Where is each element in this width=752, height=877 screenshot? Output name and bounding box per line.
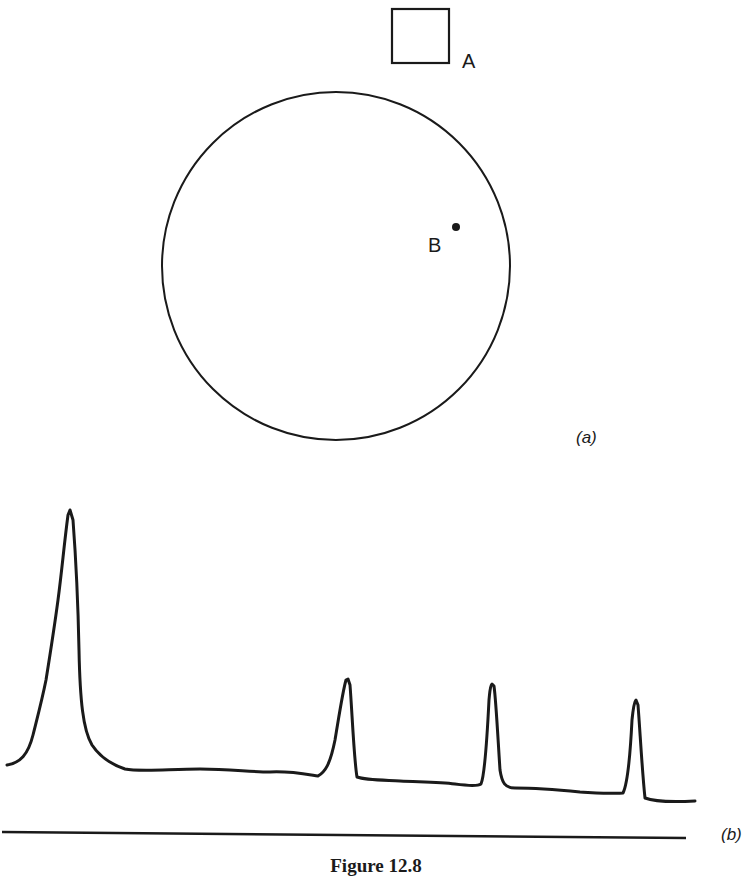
- signal-trace: [7, 510, 695, 802]
- point-b-dot: [452, 223, 460, 231]
- panel-b-label: (b): [721, 825, 742, 845]
- square-a: [392, 9, 449, 63]
- square-a-label: A: [462, 50, 475, 73]
- point-b-label: B: [428, 234, 441, 257]
- figure-caption: Figure 12.8: [0, 855, 752, 877]
- panel-a-label: (a): [576, 428, 597, 448]
- circle: [162, 92, 510, 440]
- x-axis-line: [2, 832, 686, 838]
